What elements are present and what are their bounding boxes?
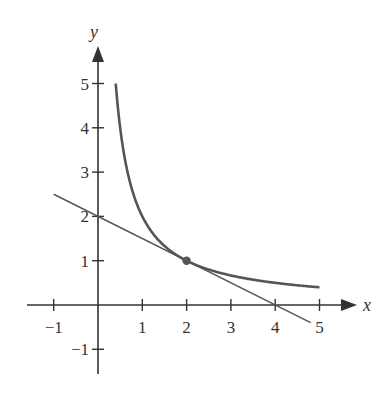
y-axis-label: y — [88, 22, 98, 42]
x-axis-label: x — [362, 295, 371, 315]
y-tick-label: 3 — [81, 163, 90, 182]
y-tick-label: 5 — [81, 75, 90, 94]
x-tick-label: −1 — [45, 318, 63, 337]
tick-labels: xy−112345−112345 — [45, 22, 371, 359]
tangent-point-marker — [182, 257, 190, 265]
x-tick-label: 2 — [182, 318, 191, 337]
series-group — [54, 84, 320, 323]
x-axis-arrow-icon — [341, 299, 357, 311]
y-tick-label: 1 — [81, 252, 90, 271]
chart-canvas: xy−112345−112345 — [0, 0, 378, 400]
y-axis-arrow-icon — [92, 46, 104, 62]
y-tick-label: 4 — [81, 119, 90, 138]
y-tick-label: −1 — [71, 340, 89, 359]
x-tick-label: 5 — [315, 318, 324, 337]
y-tick-label: 2 — [81, 207, 90, 226]
tangent-line — [54, 194, 311, 322]
x-tick-label: 1 — [138, 318, 147, 337]
x-tick-label: 4 — [271, 318, 280, 337]
x-tick-label: 3 — [227, 318, 236, 337]
curve-line — [116, 84, 320, 288]
axes — [27, 46, 357, 374]
